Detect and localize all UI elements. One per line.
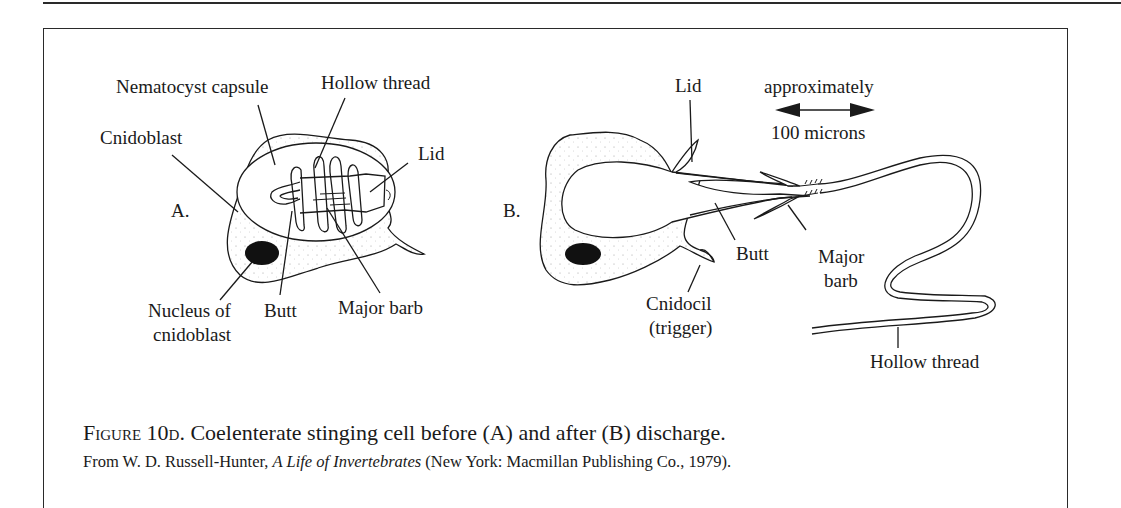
label-hollow-thread-a: Hollow thread bbox=[321, 72, 430, 93]
panel-b-drawing bbox=[540, 100, 995, 348]
hollow-thread-b bbox=[812, 155, 995, 334]
label-nucleus-line1: Nucleus of bbox=[148, 300, 231, 321]
leader-lid-b bbox=[690, 100, 692, 162]
source-title: A Life of Invertebrates bbox=[273, 452, 422, 471]
figure-source: From W. D. Russell-Hunter, A Life of Inv… bbox=[83, 452, 731, 472]
label-major-b-line1: Major bbox=[818, 246, 864, 267]
source-prefix: From W. D. Russell-Hunter, bbox=[83, 452, 273, 471]
label-scale-approximately: approximately bbox=[764, 76, 874, 97]
label-hollow-thread-b: Hollow thread bbox=[870, 351, 979, 372]
label-major-b-line2: barb bbox=[824, 270, 858, 291]
figure-caption: Figure 10d. Coelenterate stinging cell b… bbox=[83, 420, 726, 446]
nucleus-b bbox=[565, 243, 601, 265]
caption-label: Figure 10d. bbox=[83, 420, 185, 445]
lid-b-shape bbox=[672, 140, 698, 172]
label-lid-b: Lid bbox=[675, 75, 701, 96]
label-cnidoblast: Cnidoblast bbox=[100, 127, 182, 148]
scale-arrow bbox=[775, 103, 875, 117]
label-butt-b: Butt bbox=[736, 243, 769, 264]
label-cnidocil-line2: (trigger) bbox=[649, 317, 712, 338]
leader-major-barb-b bbox=[788, 205, 806, 230]
panel-b-letter: B. bbox=[503, 200, 520, 221]
caption-text: Coelenterate stinging cell before (A) an… bbox=[190, 420, 725, 445]
panel-a-drawing bbox=[172, 98, 424, 300]
panel-a-letter: A. bbox=[171, 200, 189, 221]
leader-cnidocil bbox=[688, 265, 700, 292]
nucleus-a bbox=[245, 241, 279, 265]
label-nematocyst-capsule: Nematocyst capsule bbox=[116, 76, 268, 97]
label-cnidocil-line1: Cnidocil bbox=[646, 293, 711, 314]
label-nucleus-line2: cnidoblast bbox=[153, 324, 231, 345]
label-butt-a: Butt bbox=[264, 300, 297, 321]
label-major-barb-a: Major barb bbox=[338, 297, 423, 318]
source-suffix: (New York: Macmillan Publishing Co., 197… bbox=[421, 452, 731, 471]
label-lid-a: Lid bbox=[418, 143, 444, 164]
label-scale-100-microns: 100 microns bbox=[771, 122, 865, 143]
